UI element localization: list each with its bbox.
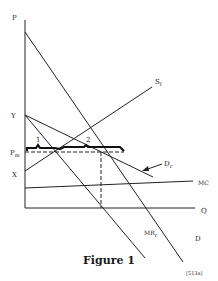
point-x-label: X: [12, 171, 17, 179]
economics-diagram: P Q Y X Pm 1 2 Sf Dr MC MRr D: [0, 0, 218, 281]
brace-bracket: [27, 145, 124, 151]
point-y-label: Y: [10, 112, 16, 120]
brace-label-1: 1: [36, 136, 40, 144]
price-axis-label: P: [12, 14, 17, 22]
fringe-supply-curve: [25, 87, 152, 171]
brace-label-2: 2: [86, 136, 90, 144]
point-pm-label: Pm: [10, 149, 20, 158]
mc-label: MC: [198, 179, 209, 186]
residual-marginal-revenue-curve: [25, 115, 145, 258]
demand-label: D: [195, 235, 201, 243]
quantity-axis-label: Q: [201, 207, 207, 215]
dr-arrow-head-icon: [142, 166, 149, 171]
supply-label: Sf: [155, 78, 163, 87]
figure-tag: [513a]: [186, 270, 202, 276]
residual-demand-label: Dr: [164, 160, 173, 169]
marginal-cost-curve: [25, 181, 193, 188]
mr-label: MRr: [144, 229, 158, 238]
figure-caption: Figure 1: [0, 254, 218, 267]
